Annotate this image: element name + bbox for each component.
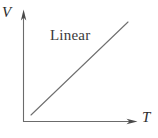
x-axis-label: T <box>142 110 150 125</box>
curve-annotation-label: Linear <box>50 28 90 43</box>
figure-canvas: V T Linear <box>0 0 158 138</box>
y-axis-label: V <box>2 5 11 20</box>
graph-svg <box>0 0 158 138</box>
